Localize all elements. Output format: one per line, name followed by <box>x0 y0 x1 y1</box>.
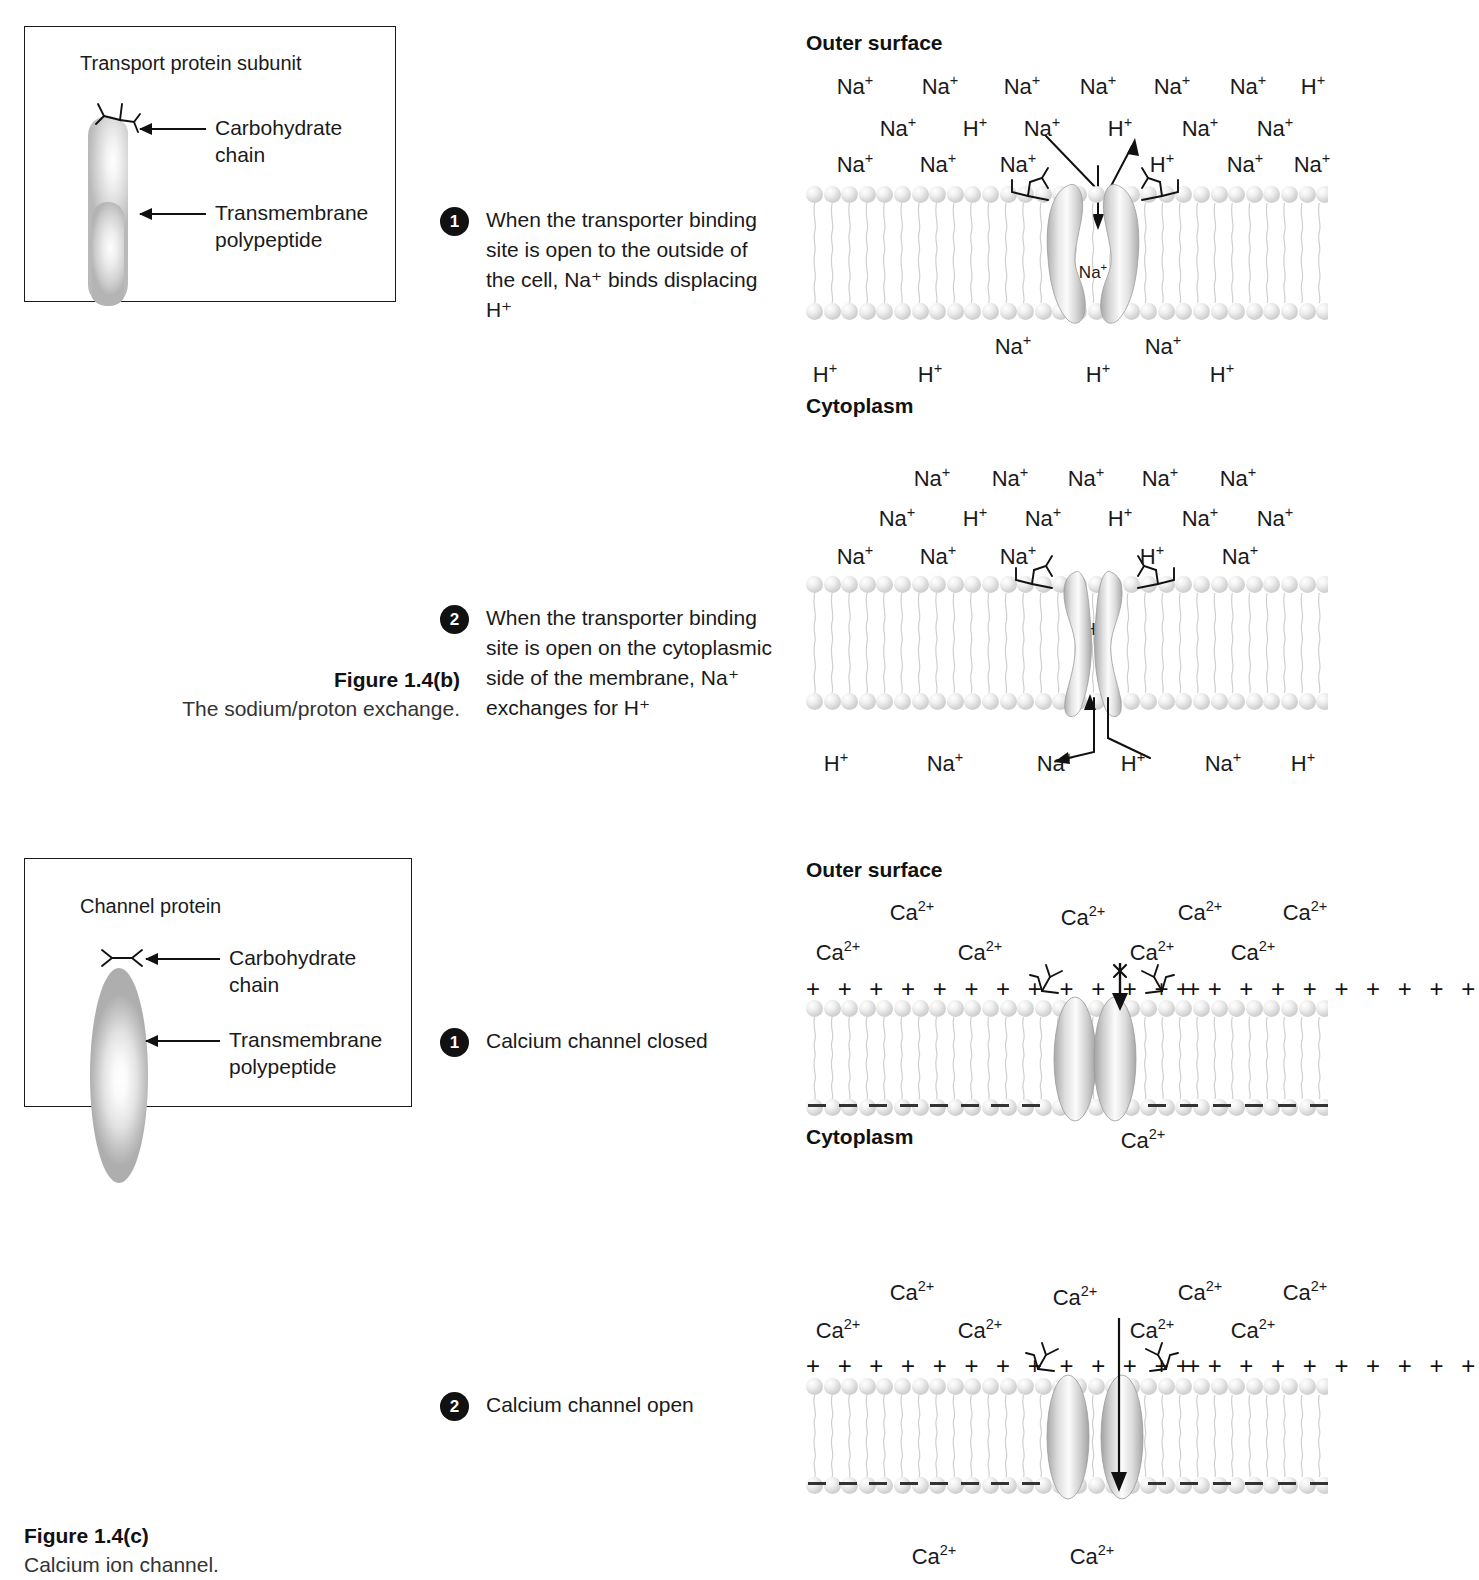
phospholipid-head <box>982 1378 999 1395</box>
phospholipid-head <box>806 186 823 203</box>
phospholipid-head <box>1228 1477 1245 1494</box>
phospholipid-head <box>1175 1099 1192 1116</box>
transmembrane-leader-arrow-c <box>146 1040 220 1042</box>
carb-label-c-line1: Carbohydrate <box>229 946 356 969</box>
phospholipid-head <box>1246 576 1263 593</box>
phospholipid-head <box>1263 693 1280 710</box>
phospholipid-head <box>876 1000 893 1017</box>
ion-label: Na+ <box>922 72 959 99</box>
phospholipid-head <box>1316 1378 1328 1395</box>
carb-label-line1: Carbohydrate <box>215 116 342 139</box>
phospholipid-head <box>806 1099 823 1116</box>
phospholipid-head <box>1263 1099 1280 1116</box>
ion-label: Ca2+ <box>1231 1316 1276 1343</box>
phospholipid-head <box>841 1378 858 1395</box>
phospholipid-head <box>1281 186 1298 203</box>
ion-label: Na+ <box>837 150 874 177</box>
phospholipid-head <box>1017 1000 1034 1017</box>
phospholipid-head <box>894 1099 911 1116</box>
phospholipid-head <box>806 1378 823 1395</box>
phospholipid-head <box>824 303 841 320</box>
inner-negative-charges-c1-right <box>1148 1104 1328 1107</box>
phospholipid-head <box>1211 303 1228 320</box>
phospholipid-head <box>1158 1378 1175 1395</box>
phospholipid-head <box>1316 303 1328 320</box>
ion-label: Ca2+ <box>1130 1316 1175 1343</box>
tm-label-line2: polypeptide <box>215 228 322 251</box>
ion-label: Na+ <box>920 542 957 569</box>
ion-label: Na+ <box>920 150 957 177</box>
ion-label: Na+ <box>879 504 916 531</box>
phospholipid-head <box>982 1000 999 1017</box>
ion-label: Na+ <box>837 72 874 99</box>
step-b2-line1: When the transporter binding <box>486 606 757 629</box>
ion-label: Na+ <box>1142 464 1179 491</box>
phospholipid-head <box>859 1378 876 1395</box>
ion-label: Na+ <box>1294 150 1331 177</box>
ion-label: H+ <box>1210 360 1234 387</box>
phospholipid-head <box>1211 576 1228 593</box>
phospholipid-head <box>1211 186 1228 203</box>
legend-label-carbohydrate-chain: Carbohydrate chain <box>215 114 342 168</box>
figure-caption-b: Figure 1.4(b) The sodium/proton exchange… <box>60 668 460 721</box>
phospholipid-head <box>806 1000 823 1017</box>
phospholipid-head <box>1316 1477 1328 1494</box>
exchange-arrows-b2 <box>1050 690 1200 770</box>
phospholipid-head <box>964 1378 981 1395</box>
phospholipid-head <box>1228 1000 1245 1017</box>
carbohydrate-chain-icon <box>1134 1341 1180 1375</box>
step-callout-b1: 1 When the transporter binding site is o… <box>440 205 780 325</box>
carbohydrate-chain-icon <box>1126 166 1182 206</box>
ion-label: Ca2+ <box>1231 938 1276 965</box>
phospholipid-head <box>841 693 858 710</box>
outer-surface-label-b1: Outer surface <box>806 31 943 55</box>
phospholipid-head <box>841 303 858 320</box>
tm-label-line1: Transmembrane <box>215 201 368 224</box>
phospholipid-head <box>982 1477 999 1494</box>
phospholipid-head <box>1299 1477 1316 1494</box>
ion-label: Ca2+ <box>890 898 935 925</box>
phospholipid-head <box>947 1099 964 1116</box>
outer-positive-charges-c1-right: + + + + + + + + + + <box>1176 975 1479 1003</box>
phospholipid-head <box>1299 1000 1316 1017</box>
ion-label: H+ <box>1291 749 1315 776</box>
outer-positive-charges-c2-right: + + + + + + + + + + <box>1176 1352 1479 1380</box>
phospholipid-head <box>964 186 981 203</box>
phospholipid-head <box>841 1000 858 1017</box>
phospholipid-head <box>1263 1000 1280 1017</box>
phospholipid-head <box>1299 576 1316 593</box>
phospholipid-head <box>947 693 964 710</box>
ion-flow-arrow-c2 <box>1102 1318 1136 1494</box>
ion-label: Na+ <box>1080 72 1117 99</box>
phospholipid-head <box>947 576 964 593</box>
ion-label: Na+ <box>1257 114 1294 141</box>
phospholipid-head <box>947 186 964 203</box>
phospholipid-head <box>1281 1099 1298 1116</box>
ion-label: Ca2+ <box>1178 1278 1223 1305</box>
phospholipid-head <box>1211 1477 1228 1494</box>
step-b2-line3: side of the membrane, Na⁺ <box>486 666 739 689</box>
phospholipid-head <box>1000 303 1017 320</box>
ion-label: H+ <box>824 749 848 776</box>
cytoplasm-label-c1: Cytoplasm <box>806 1125 913 1149</box>
phospholipid-head <box>964 303 981 320</box>
figure-c-title: Figure 1.4(c) <box>24 1524 424 1548</box>
legend-label-transmembrane-polypeptide-c: Transmembrane polypeptide <box>229 1026 382 1080</box>
phospholipid-head <box>894 576 911 593</box>
phospholipid-head <box>1017 1099 1034 1116</box>
phospholipid-head <box>1316 1099 1328 1116</box>
ion-label: Ca2+ <box>1053 1283 1098 1310</box>
phospholipid-head <box>1281 693 1298 710</box>
carbohydrate-chain-icon <box>1012 554 1068 594</box>
phospholipid-head <box>859 1477 876 1494</box>
step-badge-b2: 2 <box>440 605 469 634</box>
phospholipid-head <box>1211 1378 1228 1395</box>
ion-label: Na+ <box>1230 72 1267 99</box>
phospholipid-head <box>1246 1000 1263 1017</box>
phospholipid-head <box>1263 576 1280 593</box>
ion-label: H+ <box>1108 504 1132 531</box>
phospholipid-head <box>1000 1477 1017 1494</box>
phospholipid-head <box>1193 1099 1210 1116</box>
phospholipid-head <box>929 1378 946 1395</box>
phospholipid-head <box>1175 576 1192 593</box>
